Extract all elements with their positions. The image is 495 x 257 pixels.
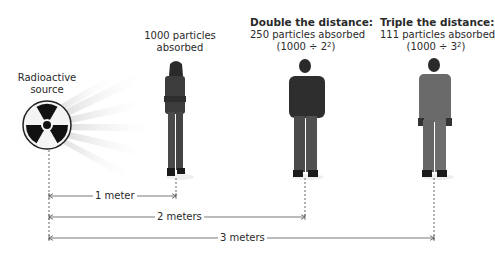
person-1-figure: [164, 61, 194, 180]
person-2-label: Double the distance: 250 particles absor…: [250, 16, 362, 53]
person-2-formula: (1000 ÷ 22): [250, 41, 362, 53]
person-2-figure: [289, 59, 325, 180]
source-label-line2: source: [16, 84, 78, 96]
distance-label-1m: 1 meter: [93, 190, 137, 201]
person-3-figure: [418, 58, 454, 180]
person-3-label: Triple the distance: 111 particles absor…: [380, 16, 492, 53]
person-3-formula: (1000 ÷ 32): [380, 41, 492, 53]
distance-label-3m: 3 meters: [218, 232, 267, 243]
person-2-title: Double the distance:: [250, 16, 373, 28]
person-1-label: 1000 particles absorbed: [140, 30, 220, 54]
person-2-count: 250 particles absorbed: [250, 29, 362, 41]
source-label: Radioactive source: [16, 72, 78, 96]
radiation-icon: [23, 101, 71, 149]
source-label-line1: Radioactive: [16, 72, 78, 84]
person-3-title: Triple the distance:: [380, 16, 494, 28]
person-1-absorbed: absorbed: [140, 42, 220, 54]
distance-label-2m: 2 meters: [155, 211, 204, 222]
person-1-count: 1000 particles: [140, 30, 220, 42]
person-3-count: 111 particles absorbed: [380, 29, 492, 41]
